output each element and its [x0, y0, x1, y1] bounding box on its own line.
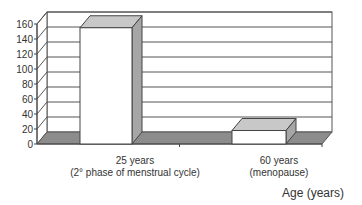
y-tick-label: 160 [16, 19, 33, 30]
category-label-1-line-2: (2° phase of menstrual cycle) [40, 167, 230, 179]
y-tick-label: 80 [22, 79, 34, 90]
bar-1-side [132, 16, 142, 144]
category-label-1-line-1: 25 years [40, 155, 230, 167]
category-label-2-line-1: 60 years [224, 155, 334, 167]
category-label-2-line-2: (menopause) [224, 167, 334, 179]
category-label-1: 25 years (2° phase of menstrual cycle) [40, 155, 230, 179]
category-label-2: 60 years (menopause) [224, 155, 334, 179]
y-tick-label: 120 [16, 49, 33, 60]
bar-2-top [232, 119, 296, 131]
y-tick-label: 60 [22, 94, 34, 105]
x-axis-title: Age (years) [282, 186, 344, 200]
y-tick-label: 40 [22, 109, 34, 120]
bar-1 [80, 28, 132, 144]
bar-1-top [80, 16, 142, 28]
bar-2 [232, 131, 286, 145]
y-tick-label: 100 [16, 64, 33, 75]
y-tick-label: 0 [27, 139, 33, 150]
y-tick-label: 140 [16, 34, 33, 45]
y-tick-label: 20 [22, 124, 34, 135]
